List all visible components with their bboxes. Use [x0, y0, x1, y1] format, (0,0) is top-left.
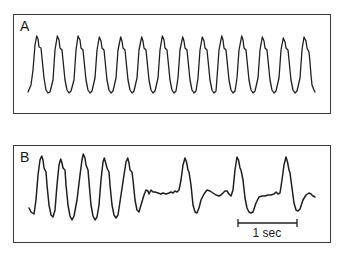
waveform-trace-b: [29, 154, 315, 220]
waveform-canvas: [0, 0, 341, 255]
waveform-trace-a: [28, 36, 315, 93]
scale-bar-label: 1 sec: [253, 226, 282, 240]
